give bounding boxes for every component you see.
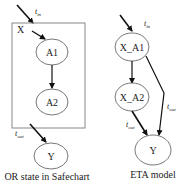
safechart-caption: OR state in Safechart bbox=[4, 171, 89, 182]
state-y-label: Y bbox=[149, 145, 156, 156]
t-out-arrow bbox=[30, 124, 46, 142]
state-x-a1-label: X_A1 bbox=[120, 42, 144, 53]
t-in-label: tin bbox=[35, 7, 42, 17]
container-label: X bbox=[17, 24, 25, 35]
eta-diagram: tin X_A1 X_A2 tout tout Y ETA model bbox=[115, 15, 176, 180]
state-a2-label: A2 bbox=[46, 97, 58, 108]
xa2-to-y-arrow bbox=[132, 111, 147, 135]
t-out-label-a1: tout bbox=[167, 102, 176, 112]
t-in-arrow bbox=[17, 5, 33, 23]
t-in-label: tin bbox=[144, 19, 151, 29]
state-y-label: Y bbox=[47, 151, 54, 162]
eta-caption: ETA model bbox=[130, 169, 176, 180]
t-out-label: tout bbox=[15, 129, 24, 139]
state-a1-label: A1 bbox=[46, 47, 58, 58]
initial-arrow bbox=[32, 31, 45, 39]
safechart-diagram: tin X A1 A2 tout Y OR state in Safechart bbox=[4, 5, 89, 182]
diagram-canvas: tin X A1 A2 tout Y OR state in Safechart… bbox=[0, 0, 193, 189]
t-out-label-a2: tout bbox=[126, 120, 135, 130]
t-in-arrow bbox=[120, 15, 132, 31]
state-x-a2-label: X_A2 bbox=[120, 92, 144, 103]
